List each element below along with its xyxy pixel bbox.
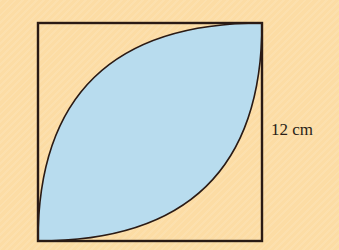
side-length-label: 12 cm	[271, 120, 313, 140]
shaded-lens-region	[38, 23, 262, 241]
